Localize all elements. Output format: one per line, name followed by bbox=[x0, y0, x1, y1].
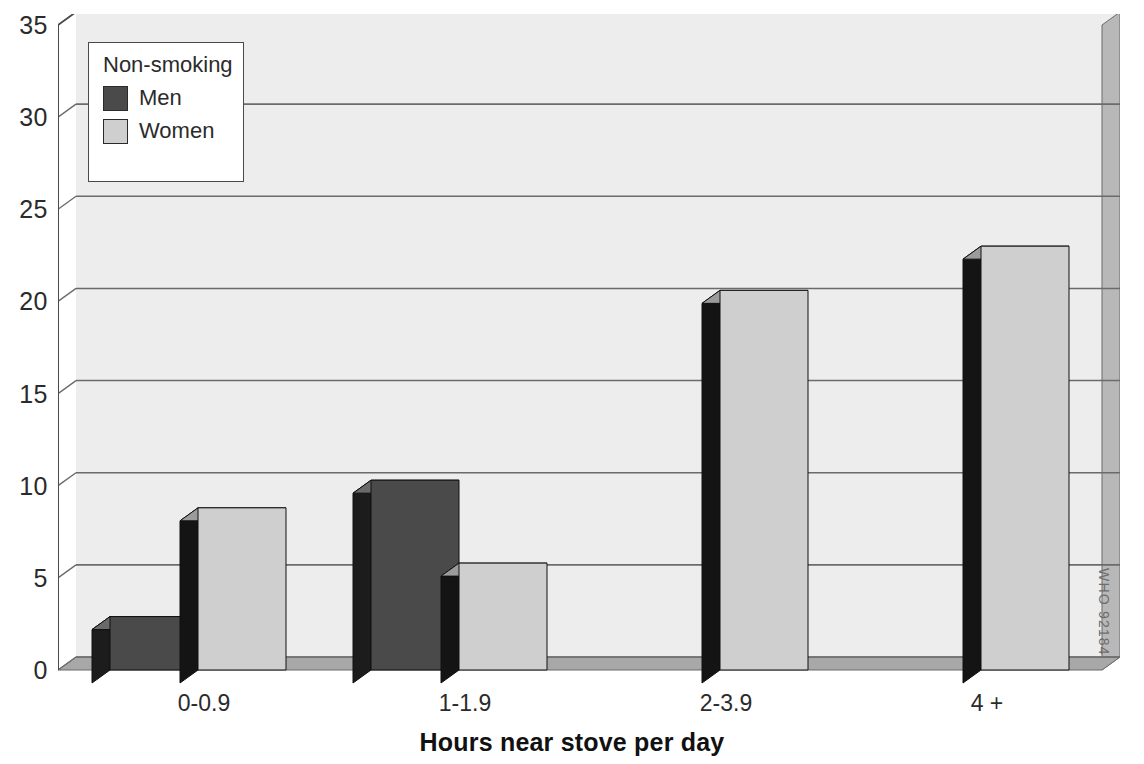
legend-swatch-women bbox=[103, 119, 128, 144]
y-axis: 05101520253035 bbox=[0, 0, 48, 764]
ytick-depth-15 bbox=[58, 381, 76, 394]
ytick-depth-30 bbox=[58, 104, 76, 117]
y-tick-label-15: 15 bbox=[19, 379, 48, 408]
bar-women-1-side bbox=[441, 563, 459, 683]
chart-container: 05101520253035 0-0.91-1.92-3.94 + Hours … bbox=[0, 0, 1144, 764]
ytick-depth-5 bbox=[58, 565, 76, 578]
y-tick-label-5: 5 bbox=[34, 563, 48, 592]
y-tick-label-30: 30 bbox=[19, 103, 48, 132]
bar-women-2-side bbox=[702, 290, 720, 683]
x-tick-label-1: 1-1.9 bbox=[439, 690, 491, 717]
y-tick-label-0: 0 bbox=[34, 656, 48, 685]
bar-women-2-front bbox=[720, 290, 808, 670]
ytick-depth-25 bbox=[58, 196, 76, 209]
y-tick-label-20: 20 bbox=[19, 287, 48, 316]
bar-women-1-front bbox=[459, 563, 547, 670]
legend-item-men: Men bbox=[103, 85, 233, 111]
x-tick-label-0: 0-0.9 bbox=[178, 690, 230, 717]
ytick-depth-10 bbox=[58, 473, 76, 486]
y-tick-label-25: 25 bbox=[19, 195, 48, 224]
legend-item-women: Women bbox=[103, 118, 233, 144]
legend-label-men: Men bbox=[139, 85, 182, 111]
y-tick-label-35: 35 bbox=[19, 11, 48, 40]
x-tick-label-3: 4 + bbox=[971, 690, 1004, 717]
y-tick-label-10: 10 bbox=[19, 471, 48, 500]
legend-swatch-men bbox=[103, 86, 128, 111]
bar-women-0-front bbox=[198, 508, 286, 670]
bar-women-3-side bbox=[963, 246, 981, 683]
ytick-depth-20 bbox=[58, 288, 76, 301]
plot-top-left-edge bbox=[58, 14, 76, 25]
bar-men-1-side bbox=[353, 480, 371, 683]
chart-legend: Non-smoking Men Women bbox=[88, 42, 244, 182]
legend-title: Non-smoking bbox=[103, 52, 233, 78]
x-axis-title: Hours near stove per day bbox=[0, 728, 1144, 757]
bar-women-3-front bbox=[981, 246, 1069, 670]
bar-women-0-side bbox=[180, 508, 198, 683]
who-watermark: WHO 92184 bbox=[1096, 568, 1112, 656]
x-tick-label-2: 2-3.9 bbox=[700, 690, 752, 717]
legend-label-women: Women bbox=[139, 118, 214, 144]
